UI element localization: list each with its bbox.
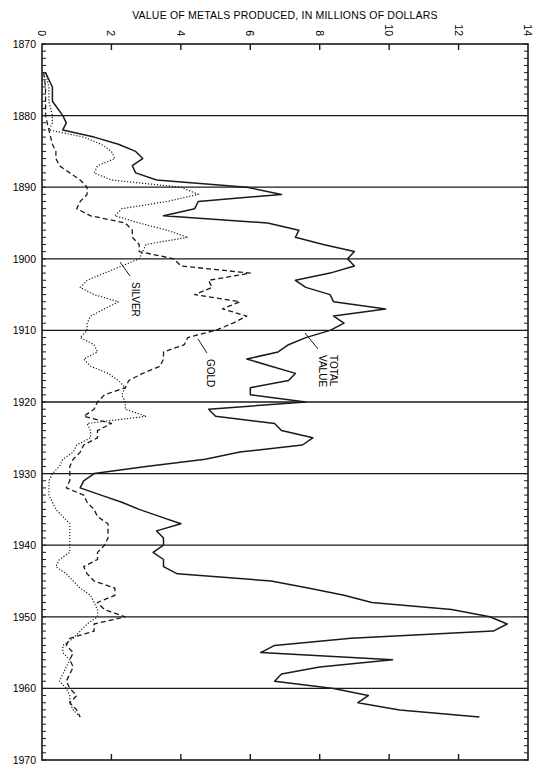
metals-production-chart: VALUE OF METALS PRODUCED, IN MILLIONS OF…: [0, 0, 540, 770]
year-tick-label: 1940: [13, 539, 37, 551]
value-tick-label: 2: [105, 30, 117, 36]
year-tick-label: 1970: [13, 754, 37, 766]
value-tick-label: 14: [522, 24, 534, 36]
total-label-line2: VALUE: [317, 355, 328, 387]
gold-leader-line: [198, 339, 207, 353]
total-label-line1: TOTAL: [328, 355, 339, 387]
gold-label: GOLD: [205, 359, 216, 387]
total-value-line: [46, 73, 508, 717]
year-tick-label: 1920: [13, 396, 37, 408]
year-tick-label: 1960: [13, 682, 37, 694]
year-tick-label: 1930: [13, 468, 37, 480]
decade-gridlines: [42, 116, 528, 689]
value-tick-label: 10: [383, 24, 395, 36]
value-tick-label: 12: [453, 24, 465, 36]
value-axis-title: VALUE OF METALS PRODUCED, IN MILLIONS OF…: [132, 9, 438, 21]
year-tick-label: 1900: [13, 253, 37, 265]
year-tick-label: 1880: [13, 110, 37, 122]
year-tick-label: 1910: [13, 324, 37, 336]
year-tick-label: 1870: [13, 38, 37, 50]
value-tick-label: 8: [314, 30, 326, 36]
value-tick-label: 0: [36, 30, 48, 36]
series-annotations: SILVER GOLD TOTAL VALUE: [120, 262, 339, 387]
year-tick-label: 1890: [13, 181, 37, 193]
silver-line: [46, 73, 199, 717]
silver-label: SILVER: [130, 282, 141, 317]
series-lines: [44, 73, 508, 717]
value-tick-label: 4: [175, 30, 187, 36]
value-tick-label: 6: [244, 30, 256, 36]
year-tick-label: 1950: [13, 611, 37, 623]
gold-line: [44, 73, 251, 717]
